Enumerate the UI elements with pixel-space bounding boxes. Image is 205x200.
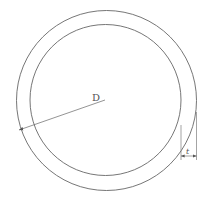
pipe-cross-section-diagram: D t bbox=[0, 0, 205, 200]
diagram-svg: D t bbox=[0, 0, 205, 200]
diameter-label: D bbox=[92, 92, 100, 103]
inner-circle bbox=[30, 25, 181, 176]
outer-circle bbox=[17, 11, 197, 191]
thickness-label: t bbox=[186, 147, 190, 156]
